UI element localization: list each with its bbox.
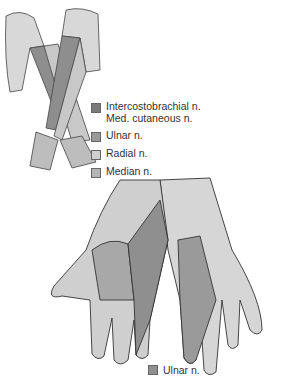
- legend-swatch: [148, 365, 158, 375]
- arms-illustration: [6, 9, 101, 170]
- nerve-legend: Intercostobrachial n. Med. cutaneous n. …: [91, 100, 201, 183]
- legend-swatch: [91, 168, 101, 178]
- legend-label: Med. cutaneous n.: [106, 112, 201, 124]
- legend-label: Ulnar n.: [163, 364, 200, 376]
- legend-swatch: [91, 150, 101, 160]
- legend-label: Ulnar n.: [106, 129, 143, 141]
- hands-illustration: [51, 178, 262, 375]
- legend-swatch: [91, 132, 101, 142]
- legend-item-radial: Radial n.: [91, 147, 201, 160]
- hand-legend: Ulnar n.: [148, 364, 200, 376]
- legend-swatch: [91, 103, 101, 113]
- legend-label: Intercostobrachial n.: [106, 100, 201, 112]
- legend-item-median: Median n.: [91, 165, 201, 178]
- legend-label: Radial n.: [106, 147, 147, 159]
- legend-label: Median n.: [106, 165, 152, 177]
- legend-item-ulnar: Ulnar n.: [91, 129, 201, 142]
- nerve-distribution-illustration: [0, 0, 283, 385]
- legend-item-intercostobrachial: Intercostobrachial n. Med. cutaneous n.: [91, 100, 201, 124]
